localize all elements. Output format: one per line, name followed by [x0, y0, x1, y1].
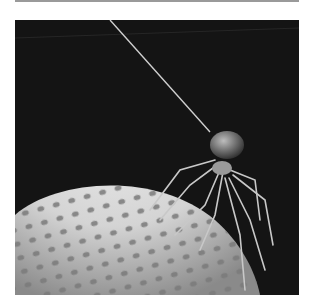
photograph: [15, 20, 299, 295]
spider-photo-illustration: [15, 20, 299, 295]
top-divider: [15, 0, 299, 2]
